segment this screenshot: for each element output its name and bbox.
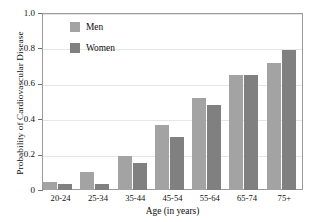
y-axis-tick-label: 1.0 — [1, 9, 35, 18]
bar-group — [191, 13, 228, 190]
x-axis-tick-label: 75+ — [261, 193, 307, 203]
y-axis-tick-label: 0 — [1, 186, 35, 195]
bar-women-20-24 — [58, 184, 72, 190]
bar-men-35-44 — [118, 156, 132, 190]
y-axis-tick-label: 0.2 — [1, 150, 35, 159]
bar-group — [228, 13, 265, 190]
bar-group — [117, 13, 154, 190]
bar-group — [266, 13, 303, 190]
bar-group — [154, 13, 191, 190]
bar-men-20-24 — [43, 182, 57, 190]
y-axis-tick — [38, 190, 43, 191]
legend-swatch-women-icon — [70, 43, 80, 53]
y-axis-tick-label: 0.6 — [1, 79, 35, 88]
legend: Men Women — [70, 21, 115, 63]
y-axis-title: Probability of Cardiovascular Disease — [15, 3, 25, 203]
y-axis-tick-label: 0.8 — [1, 44, 35, 53]
x-axis-title: Age (in years) — [42, 206, 303, 216]
legend-label-men: Men — [86, 22, 103, 32]
legend-swatch-men-icon — [70, 22, 80, 32]
legend-label-women: Women — [86, 43, 115, 53]
legend-item-women: Women — [70, 42, 115, 53]
bar-women-25-34 — [95, 184, 109, 190]
bar-men-55-64 — [192, 98, 206, 190]
bar-men-25-34 — [80, 172, 94, 190]
y-axis-tick-label: 0.4 — [1, 115, 35, 124]
bar-women-55-64 — [207, 105, 221, 190]
bar-women-35-44 — [133, 163, 147, 190]
bar-men-45-54 — [155, 125, 169, 190]
cardiovascular-disease-bar-chart: Probability of Cardiovascular Disease 00… — [0, 0, 311, 222]
bar-women-65-74 — [244, 75, 258, 190]
bar-women-45-54 — [170, 137, 184, 190]
bar-men-65-74 — [229, 75, 243, 190]
legend-item-men: Men — [70, 21, 115, 32]
bar-men-75+ — [267, 63, 281, 190]
bar-women-75+ — [282, 50, 296, 190]
